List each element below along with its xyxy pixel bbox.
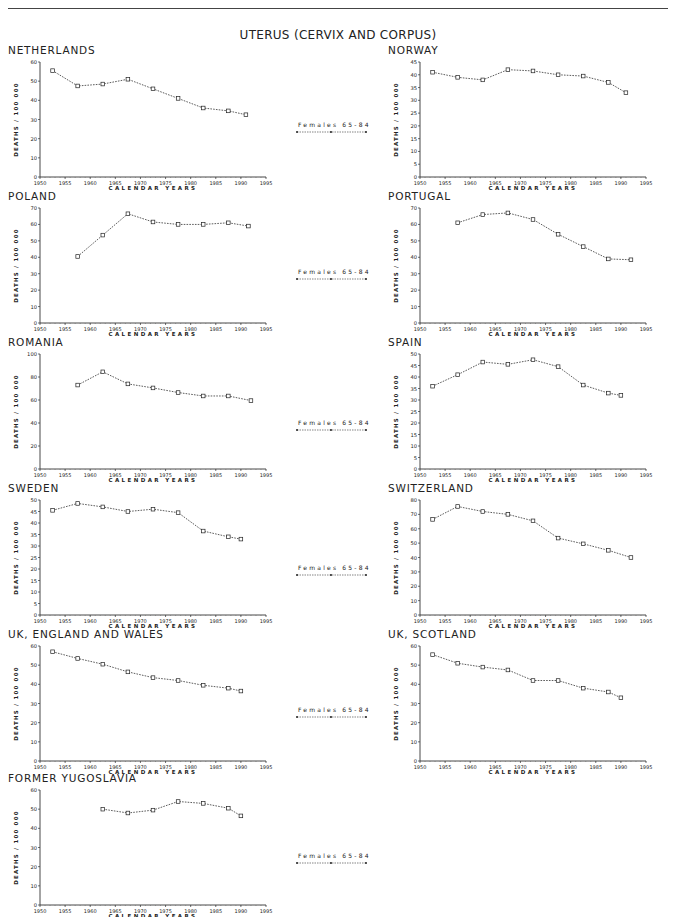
x-tick-label: 1955 (59, 908, 72, 914)
data-point-marker (581, 383, 585, 387)
data-point-marker (531, 519, 535, 523)
data-point-marker (619, 394, 623, 398)
x-tick-label: 1985 (209, 764, 222, 770)
y-tick-label: 40 (30, 681, 37, 687)
y-tick-label: 10 (30, 883, 37, 889)
x-tick-label: 1950 (34, 472, 47, 478)
data-point-marker (126, 212, 130, 216)
data-point-marker (481, 360, 485, 364)
y-axis-label: DEATHS / 100 000 (13, 228, 19, 302)
x-tick-label: 1990 (615, 472, 628, 478)
y-tick-label: 20 (30, 287, 37, 293)
data-point-marker (431, 653, 435, 657)
data-point-marker (176, 223, 180, 227)
x-tick-label: 1995 (640, 326, 653, 332)
data-line (78, 372, 251, 401)
data-point-marker (151, 676, 155, 680)
y-tick-label: 15 (30, 578, 37, 584)
x-tick-label: 1955 (439, 472, 452, 478)
data-point-marker (581, 245, 585, 249)
x-tick-label: 1955 (59, 618, 72, 624)
page-top-rule (8, 8, 668, 9)
data-point-marker (531, 69, 535, 73)
series-legend: Females 65-84 (296, 121, 376, 137)
data-point-marker (126, 77, 130, 81)
y-tick-label: 80 (30, 374, 37, 380)
x-tick-label: 1950 (34, 618, 47, 624)
y-tick-label: 45 (410, 363, 417, 369)
chart-panel: UK, SCOTLAND0102030405060195019551960196… (384, 628, 674, 773)
y-tick-label: 30 (410, 569, 417, 575)
data-point-marker (76, 255, 80, 259)
y-tick-label: 30 (410, 97, 417, 103)
y-tick-label: 25 (30, 555, 37, 561)
data-point-marker (629, 258, 633, 262)
data-point-marker (244, 113, 248, 117)
y-tick-label: 50 (30, 806, 37, 812)
data-point-marker (629, 556, 633, 560)
data-point-marker (456, 221, 460, 225)
data-point-marker (247, 224, 251, 228)
y-tick-label: 100 (27, 351, 37, 357)
y-tick-label: 25 (410, 110, 417, 116)
x-tick-label: 1950 (414, 472, 427, 478)
data-line (53, 71, 246, 115)
data-point-marker (76, 502, 80, 506)
y-tick-label: 50 (410, 351, 417, 357)
y-tick-label: 10 (30, 155, 37, 161)
data-line (433, 70, 626, 93)
y-tick-label: 40 (410, 72, 417, 78)
x-tick-label: 1995 (260, 764, 273, 770)
y-tick-label: 30 (30, 271, 37, 277)
line-chart: 0510152025303540455019501955196019651970… (384, 336, 674, 481)
data-point-marker (201, 683, 205, 687)
y-tick-label: 20 (410, 287, 417, 293)
data-point-marker (176, 511, 180, 515)
data-point-marker (76, 383, 80, 387)
x-tick-label: 1960 (84, 618, 97, 624)
y-tick-label: 30 (410, 397, 417, 403)
data-point-marker (481, 213, 485, 217)
x-tick-label: 1990 (235, 618, 248, 624)
y-tick-label: 40 (30, 520, 37, 526)
line-chart: 0102030405060195019551960196519701975198… (384, 628, 674, 773)
x-tick-label: 1990 (615, 180, 628, 186)
y-tick-label: 20 (30, 864, 37, 870)
data-point-marker (227, 221, 231, 225)
y-tick-label: 50 (410, 540, 417, 546)
data-point-marker (556, 232, 560, 236)
chart-panel: NORWAY0510152025303540451950195519601965… (384, 44, 674, 189)
data-point-marker (201, 106, 205, 110)
data-point-marker (506, 211, 510, 215)
data-point-marker (556, 536, 560, 540)
series-legend: Females 65-84 (296, 706, 376, 722)
x-tick-label: 1990 (235, 180, 248, 186)
x-tick-label: 1995 (260, 908, 273, 914)
x-tick-label: 1950 (34, 326, 47, 332)
x-tick-label: 1985 (589, 618, 602, 624)
data-point-marker (151, 220, 155, 224)
y-tick-label: 10 (410, 148, 417, 154)
x-tick-label: 1995 (260, 618, 273, 624)
x-tick-label: 1960 (464, 618, 477, 624)
line-chart: 0102030405060195019551960196519701975198… (4, 772, 294, 917)
data-point-marker (607, 81, 611, 85)
y-tick-label: 10 (410, 739, 417, 745)
x-tick-label: 1985 (589, 764, 602, 770)
x-tick-label: 1985 (589, 180, 602, 186)
x-tick-label: 1950 (34, 764, 47, 770)
x-tick-label: 1960 (464, 180, 477, 186)
y-tick-label: 30 (30, 701, 37, 707)
x-tick-label: 1960 (464, 326, 477, 332)
data-point-marker (431, 518, 435, 522)
legend-line-icon (296, 277, 368, 281)
y-tick-label: 60 (30, 397, 37, 403)
y-tick-label: 30 (30, 543, 37, 549)
legend-line-icon (296, 130, 368, 134)
data-point-marker (201, 223, 205, 227)
x-tick-label: 1960 (84, 472, 97, 478)
data-point-marker (531, 358, 535, 362)
chart-panel: SWITZERLAND01020304050607080195019551960… (384, 482, 674, 627)
series-legend: Females 65-84 (296, 564, 376, 580)
y-tick-label: 50 (410, 238, 417, 244)
